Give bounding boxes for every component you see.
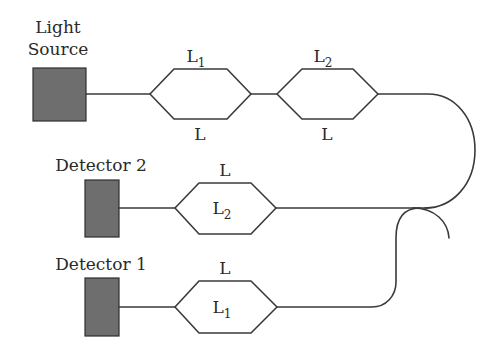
mz1-bottom-label: L bbox=[194, 124, 205, 144]
detector-1-box bbox=[85, 278, 119, 336]
detector-1-label: Detector 1 bbox=[55, 254, 147, 274]
light-source-label-line2: Source bbox=[28, 39, 89, 59]
detector-2-box bbox=[85, 180, 119, 237]
mz4-top-label: L bbox=[219, 258, 230, 278]
mz2-bottom-label: L bbox=[321, 124, 332, 144]
mz2-top-label: L2 bbox=[314, 46, 333, 70]
light-source-label-line1: Light bbox=[35, 17, 81, 37]
fiber-loop bbox=[378, 94, 475, 208]
mz2-hexagon bbox=[277, 69, 378, 119]
light-source-box bbox=[33, 68, 86, 121]
mz3-top-label: L bbox=[219, 160, 230, 180]
detector-1: Detector 1 bbox=[55, 254, 147, 336]
light-source: Light Source bbox=[28, 17, 89, 121]
fiber-coupler bbox=[277, 208, 449, 307]
fiber-coupler-to-mz4 bbox=[277, 208, 420, 307]
mz3-inner-label: L2 bbox=[213, 198, 232, 222]
detector-2: Detector 2 bbox=[55, 155, 147, 237]
top-fiber-path bbox=[86, 69, 475, 208]
mz4-inner-label: L1 bbox=[213, 297, 232, 321]
interferometer-diagram: Light Source L1 L L2 L Detector 2 L L2 D… bbox=[0, 0, 498, 357]
detector-2-label: Detector 2 bbox=[55, 155, 147, 175]
mz1-hexagon bbox=[150, 69, 251, 119]
coupler-unused-arm bbox=[413, 208, 449, 238]
mz1-top-label: L1 bbox=[187, 46, 206, 70]
